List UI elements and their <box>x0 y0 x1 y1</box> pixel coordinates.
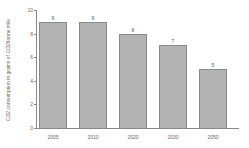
y-tick-label: 2 <box>24 101 33 107</box>
y-tick-mark <box>34 104 36 105</box>
y-tick-mark <box>34 10 36 11</box>
y-tick-mark <box>34 34 36 35</box>
y-tick-mark <box>34 128 36 129</box>
y-tick-label: 4 <box>24 78 33 84</box>
bar-value-label: 7 <box>159 38 187 44</box>
y-tick-label: 10 <box>24 7 33 13</box>
y-axis-line <box>36 10 37 129</box>
bar-chart: CO2 consumption in grams of CO2/tonne mi… <box>0 0 249 148</box>
x-tick-label: 2005 <box>39 134 67 140</box>
y-tick-mark <box>34 57 36 58</box>
bar-value-label: 9 <box>79 15 107 21</box>
x-tick-label: 2030 <box>159 134 187 140</box>
y-tick-label: 0 <box>24 125 33 131</box>
bar-2010 <box>79 22 107 128</box>
bar-value-label: 8 <box>119 27 147 33</box>
x-tick-label: 2010 <box>79 134 107 140</box>
y-tick-label: 6 <box>24 54 33 60</box>
bar-value-label: 9 <box>39 15 67 21</box>
y-tick-mark <box>34 81 36 82</box>
bar-2005 <box>39 22 67 128</box>
plot-area: 02468109200592010820207203052050 <box>36 10 239 129</box>
x-tick-label: 2050 <box>199 134 227 140</box>
x-axis-line <box>36 128 239 129</box>
bar-2020 <box>119 34 147 128</box>
bar-2030 <box>159 45 187 128</box>
y-axis-label: CO2 consumption in grams of CO2/tonne mi… <box>5 10 13 130</box>
y-tick-label: 8 <box>24 31 33 37</box>
bar-value-label: 5 <box>199 62 227 68</box>
bar-2050 <box>199 69 227 128</box>
x-tick-label: 2020 <box>119 134 147 140</box>
